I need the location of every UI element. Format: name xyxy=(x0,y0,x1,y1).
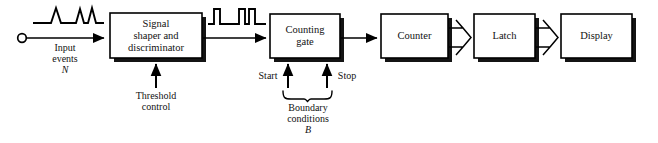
block-label-signal-shaper: Signal shaper and discriminator xyxy=(110,18,202,53)
threshold-control-label: Threshold control xyxy=(111,90,201,112)
shaper-line-2: shaper and xyxy=(110,30,202,42)
latch-to-display-bus-arrow xyxy=(536,20,558,55)
gate-line-1: Counting xyxy=(270,24,340,36)
block-label-latch: Latch xyxy=(474,30,535,42)
input-terminal-circle xyxy=(18,34,27,43)
shaped-waveform xyxy=(208,9,266,24)
counter-line-1: Counter xyxy=(381,30,448,42)
stop-label: Stop xyxy=(331,70,363,81)
display-line-1: Display xyxy=(561,30,632,42)
input-label-line-1: Input xyxy=(26,42,104,53)
gate-line-2: gate xyxy=(270,36,340,48)
latch-line-1: Latch xyxy=(474,30,535,42)
shaper-line-3: discriminator xyxy=(110,42,202,54)
block-label-counter: Counter xyxy=(381,30,448,42)
boundary-line-1: Boundary xyxy=(262,102,354,113)
stop-text: Stop xyxy=(331,70,363,81)
input-symbol-n: N xyxy=(26,64,104,75)
block-label-display: Display xyxy=(561,30,632,42)
counter-to-latch-bus-arrow xyxy=(449,20,471,55)
start-label: Start xyxy=(252,70,284,81)
boundary-conditions-brace xyxy=(283,91,332,102)
threshold-line-1: Threshold xyxy=(111,90,201,101)
input-terminal-group xyxy=(18,34,104,43)
boundary-conditions-label: Boundary conditions B xyxy=(262,102,354,136)
start-text: Start xyxy=(252,70,284,81)
input-waveform xyxy=(33,8,104,23)
threshold-line-2: control xyxy=(111,101,201,112)
block-diagram: Signal shaper and discriminator Counting… xyxy=(0,0,658,143)
input-events-label: Input events N xyxy=(26,42,104,76)
shaper-line-1: Signal xyxy=(110,18,202,30)
boundary-line-2: conditions xyxy=(262,113,354,124)
block-label-counting-gate: Counting gate xyxy=(270,24,340,48)
input-label-line-2: events xyxy=(26,53,104,64)
boundary-symbol-b: B xyxy=(262,124,354,135)
